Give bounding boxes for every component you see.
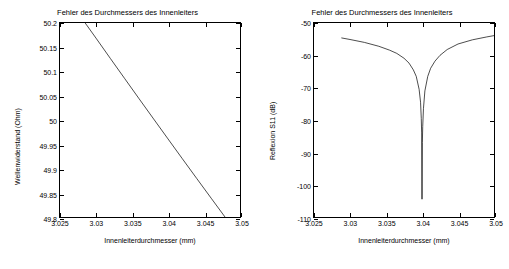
y-tick-mark: [60, 146, 64, 147]
y-tick-mark: [236, 72, 240, 73]
x-tick-mark: [495, 213, 496, 217]
y-tick-mark: [314, 56, 318, 57]
y-tick-mark: [60, 48, 64, 49]
x-tick-mark: [133, 23, 134, 27]
y-tick-mark: [490, 154, 494, 155]
x-tick-mark: [460, 23, 461, 27]
x-tick-mark: [206, 23, 207, 27]
y-tick-label: 49.95: [39, 142, 57, 149]
y-tick-label: -100: [297, 183, 311, 190]
x-tick-label: 3.05: [489, 220, 503, 227]
x-tick-mark: [314, 213, 315, 217]
x-tick-mark: [423, 213, 424, 217]
chart-left-line-series: [60, 23, 240, 217]
x-tick-label: 3.04: [416, 220, 430, 227]
x-tick-label: 3.03: [344, 220, 358, 227]
x-tick-label: 3.045: [197, 220, 215, 227]
y-tick-label: 50: [49, 118, 57, 125]
y-tick-mark: [60, 121, 64, 122]
x-tick-mark: [495, 23, 496, 27]
y-tick-mark: [490, 186, 494, 187]
y-tick-mark: [60, 170, 64, 171]
chart-left-x-axis-label: Innenleiterdurchmesser (mm): [59, 237, 241, 244]
y-tick-label: -80: [301, 118, 311, 125]
y-tick-mark: [490, 23, 494, 24]
chart-right-y-axis-label: Reflexion S11 (dB): [269, 102, 276, 160]
y-tick-mark: [490, 121, 494, 122]
y-tick-label: -50: [301, 20, 311, 27]
x-tick-label: 3.025: [305, 220, 323, 227]
y-tick-mark: [314, 186, 318, 187]
y-tick-mark: [60, 72, 64, 73]
x-tick-label: 3.045: [451, 220, 469, 227]
x-tick-label: 3.025: [51, 220, 69, 227]
x-tick-mark: [241, 213, 242, 217]
chart-right-line-series: [314, 23, 494, 217]
y-tick-mark: [314, 154, 318, 155]
y-tick-mark: [490, 88, 494, 89]
chart-left-y-axis-label: Wellenwiderstand (Ohm): [14, 108, 21, 185]
x-tick-mark: [387, 213, 388, 217]
y-tick-mark: [236, 195, 240, 196]
y-tick-mark: [236, 97, 240, 98]
y-tick-mark: [236, 23, 240, 24]
x-tick-mark: [350, 23, 351, 27]
y-tick-label: -60: [301, 52, 311, 59]
x-tick-label: 3.035: [378, 220, 396, 227]
x-tick-mark: [350, 213, 351, 217]
y-tick-mark: [490, 56, 494, 57]
y-tick-label: 50.1: [43, 69, 57, 76]
x-tick-mark: [241, 23, 242, 27]
x-tick-mark: [133, 213, 134, 217]
y-tick-label: 49.85: [39, 191, 57, 198]
x-tick-label: 3.04: [162, 220, 176, 227]
chart-right-plot-area: -50-60-70-80-90-100-1103.0253.033.0353.0…: [313, 22, 495, 218]
x-tick-mark: [169, 23, 170, 27]
x-tick-mark: [169, 213, 170, 217]
chart-left-plot-area: 49.849.8549.949.955050.0550.150.1550.23.…: [59, 22, 241, 218]
x-tick-mark: [96, 213, 97, 217]
y-tick-mark: [236, 170, 240, 171]
x-tick-mark: [206, 213, 207, 217]
y-tick-mark: [236, 121, 240, 122]
x-tick-mark: [60, 23, 61, 27]
y-tick-label: 50.15: [39, 44, 57, 51]
x-tick-mark: [460, 213, 461, 217]
y-tick-mark: [60, 97, 64, 98]
chart-left-title: Fehler des Durchmessers des Innenleiters: [0, 8, 255, 17]
x-tick-mark: [423, 23, 424, 27]
y-tick-label: 50.05: [39, 93, 57, 100]
y-tick-label: -90: [301, 150, 311, 157]
x-tick-label: 3.035: [124, 220, 142, 227]
y-tick-mark: [314, 88, 318, 89]
x-tick-mark: [60, 213, 61, 217]
x-tick-mark: [96, 23, 97, 27]
chart-right-title: Fehler des Durchmessers des Innenleiters: [255, 8, 509, 17]
y-tick-mark: [60, 195, 64, 196]
chart-right-x-axis-label: Innenleiterdurchmesser (mm): [313, 237, 495, 244]
x-tick-label: 3.05: [235, 220, 249, 227]
y-tick-label: 49.9: [43, 167, 57, 174]
x-tick-mark: [314, 23, 315, 27]
y-tick-label: -70: [301, 85, 311, 92]
y-tick-mark: [314, 121, 318, 122]
x-tick-label: 3.03: [90, 220, 104, 227]
y-tick-mark: [236, 146, 240, 147]
figure-page: Fehler des Durchmessers des Innenleiters…: [0, 0, 509, 269]
x-tick-mark: [387, 23, 388, 27]
chart-right: Fehler des Durchmessers des Innenleiters…: [255, 0, 509, 269]
y-tick-mark: [236, 48, 240, 49]
y-tick-label: 50.2: [43, 20, 57, 27]
chart-left: Fehler des Durchmessers des Innenleiters…: [0, 0, 255, 269]
